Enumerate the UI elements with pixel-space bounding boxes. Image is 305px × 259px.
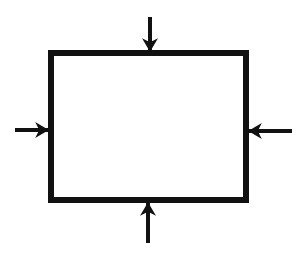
compression-diagram bbox=[0, 0, 305, 259]
rectangle-box bbox=[51, 53, 246, 200]
